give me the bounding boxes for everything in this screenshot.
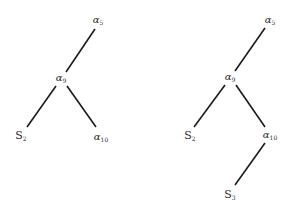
node-base: α bbox=[93, 14, 100, 25]
node-right-alpha5: α5 bbox=[265, 15, 276, 26]
node-base: α bbox=[265, 14, 272, 25]
node-subscript: 10 bbox=[270, 134, 278, 141]
node-base: S bbox=[15, 129, 23, 142]
edge-left-a9-a10 bbox=[67, 86, 96, 127]
node-left-alpha9: α9 bbox=[56, 73, 67, 84]
node-right-s3: S3 bbox=[224, 189, 235, 201]
node-base: α bbox=[225, 71, 232, 82]
node-subscript: 3 bbox=[232, 194, 236, 201]
node-subscript: 2 bbox=[23, 135, 27, 142]
edge-left-a9-s2 bbox=[27, 86, 56, 127]
node-subscript: 10 bbox=[101, 136, 109, 143]
node-subscript: 5 bbox=[271, 19, 275, 26]
node-subscript: 2 bbox=[192, 135, 196, 142]
node-base: α bbox=[263, 129, 270, 140]
node-subscript: 5 bbox=[99, 19, 103, 26]
node-left-s2: S2 bbox=[15, 130, 26, 142]
node-right-alpha9: α9 bbox=[225, 72, 236, 83]
edge-right-a5-a9 bbox=[235, 28, 265, 71]
node-base: α bbox=[94, 131, 101, 142]
node-left-alpha10: α10 bbox=[94, 132, 108, 143]
edge-right-a9-s2 bbox=[194, 85, 225, 127]
tree-edges bbox=[0, 0, 296, 220]
node-right-alpha10: α10 bbox=[263, 130, 277, 141]
node-subscript: 9 bbox=[231, 76, 235, 83]
node-base: S bbox=[224, 188, 232, 201]
edge-left-a5-a9 bbox=[66, 29, 95, 72]
edge-right-a10-s3 bbox=[235, 143, 265, 185]
node-base: S bbox=[184, 129, 192, 142]
node-right-s2: S2 bbox=[184, 130, 195, 142]
node-base: α bbox=[56, 72, 63, 83]
edge-right-a9-a10 bbox=[236, 85, 265, 127]
node-subscript: 9 bbox=[62, 77, 66, 84]
node-left-alpha5: α5 bbox=[93, 15, 104, 26]
